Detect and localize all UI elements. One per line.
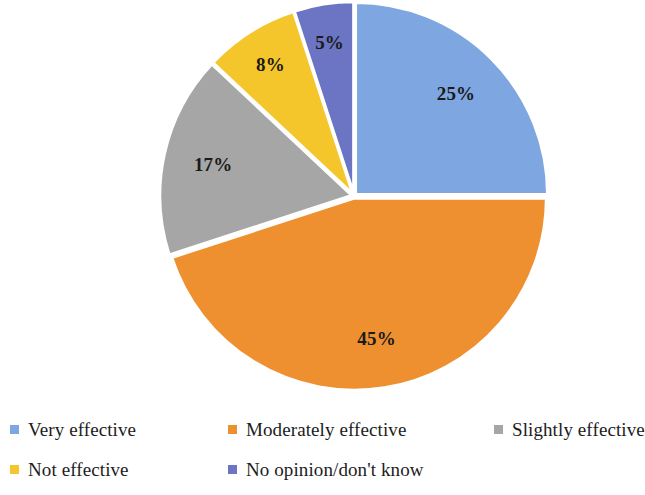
pie-slice-label: 17% [194, 154, 233, 175]
legend-item[interactable]: No opinion/don't know [228, 460, 424, 479]
pie-slice-label: 25% [437, 83, 476, 104]
pie-plot-area: 25%45%17%8%5% [0, 0, 642, 400]
legend-swatch-icon [494, 425, 503, 434]
pie-slice-label: 8% [256, 54, 285, 75]
legend-item-label: Slightly effective [512, 420, 645, 439]
legend-item[interactable]: Very effective [10, 420, 136, 439]
legend-item-label: Very effective [28, 420, 136, 439]
legend-item-label: No opinion/don't know [246, 460, 424, 479]
pie-graphic: 25%45%17%8%5% [0, 0, 642, 400]
legend-item-label: Not effective [28, 460, 129, 479]
legend-swatch-icon [10, 425, 19, 434]
legend-swatch-icon [10, 465, 19, 474]
legend-item[interactable]: Moderately effective [228, 420, 406, 439]
pie-slice-label: 45% [357, 328, 396, 349]
legend-item-label: Moderately effective [246, 420, 406, 439]
legend-swatch-icon [228, 425, 237, 434]
chart-legend: Very effectiveModerately effectiveSlight… [0, 408, 642, 495]
pie-slice-label: 5% [315, 32, 344, 53]
legend-item[interactable]: Slightly effective [494, 420, 645, 439]
legend-item[interactable]: Not effective [10, 460, 129, 479]
legend-swatch-icon [228, 465, 237, 474]
